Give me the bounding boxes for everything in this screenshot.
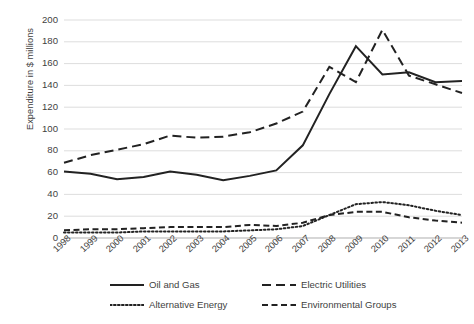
y-axis-tick-label: 200 [24, 15, 58, 25]
legend-key-dash-line-icon [262, 300, 296, 310]
legend-item-oil-and-gas[interactable]: Oil and Gas [110, 279, 200, 290]
legend-key-long-dash-line-icon [262, 280, 296, 290]
series-line-alternative-energy [64, 202, 462, 233]
legend-label: Oil and Gas [149, 279, 200, 290]
plot-area [0, 0, 474, 324]
legend-item-electric-utilities[interactable]: Electric Utilities [262, 279, 366, 290]
line-chart: Expenditure in $ millions 02040608010012… [0, 0, 474, 324]
legend-key-dotted-line-icon [110, 300, 144, 310]
y-axis-tick-label: 20 [24, 211, 58, 221]
y-axis-tick-label: 40 [24, 189, 58, 199]
legend-label: Electric Utilities [301, 279, 366, 290]
series-group [64, 30, 462, 233]
y-axis-tick-label: 120 [24, 102, 58, 112]
gridlines [64, 20, 462, 238]
y-axis-tick-label: 100 [24, 124, 58, 134]
series-line-oil-and-gas [64, 46, 462, 180]
y-axis-tick-label: 80 [24, 145, 58, 155]
series-line-environmental-groups [64, 212, 462, 231]
legend-key-solid-line-icon [110, 280, 144, 290]
y-axis-tick-label: 60 [24, 167, 58, 177]
series-line-electric-utilities [64, 30, 462, 163]
y-axis-tick-label: 140 [24, 80, 58, 90]
y-axis-tick-label: 160 [24, 58, 58, 68]
legend-label: Environmental Groups [301, 299, 396, 310]
y-axis-tick-label: 0 [24, 233, 58, 243]
legend-item-alternative-energy[interactable]: Alternative Energy [110, 299, 227, 310]
y-axis-tick-label: 180 [24, 36, 58, 46]
legend-label: Alternative Energy [149, 299, 227, 310]
legend-item-environmental-groups[interactable]: Environmental Groups [262, 299, 396, 310]
